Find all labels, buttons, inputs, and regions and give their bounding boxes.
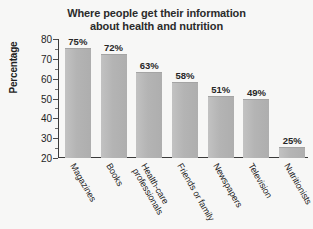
y-tick-label: 60 [41, 73, 52, 84]
plot-area: 20304050607080 75%Magazines72%Books63%He… [58, 39, 308, 158]
bar-value-label: 25% [283, 135, 302, 146]
y-tick-label: 30 [41, 133, 52, 144]
bar[interactable]: 49%Television [243, 99, 269, 158]
y-tick-label: 20 [41, 153, 52, 164]
y-tick-label: 50 [41, 93, 52, 104]
x-tick-label-line: Nutritionists [282, 162, 313, 206]
x-tick-label-line: Friends or family [175, 162, 216, 223]
y-tick-label: 70 [41, 53, 52, 64]
bar[interactable]: 75%Magazines [65, 48, 91, 158]
x-tick-label-line: Magazines [68, 162, 98, 204]
bar-value-label: 75% [68, 36, 87, 47]
x-tick-label: Nutritionists [282, 162, 313, 206]
bar[interactable]: 51%Newspapers [208, 96, 234, 158]
bar-chart: Where people get their information about… [0, 0, 313, 229]
chart-title-line-2: about health and nutrition [0, 20, 313, 33]
bar-value-label: 51% [211, 84, 230, 95]
x-tick-label-line: Books [103, 162, 123, 188]
bar[interactable]: 58%Friends or family [172, 82, 198, 158]
chart-title: Where people get their information about… [0, 7, 313, 32]
x-tick-label: Magazines [68, 162, 98, 204]
y-tick-major [53, 158, 58, 159]
x-tick-label: Books [103, 162, 123, 188]
x-tick-label: Newspapers [210, 162, 243, 209]
bar-value-label: 49% [247, 87, 266, 98]
bar-value-label: 72% [104, 42, 123, 53]
chart-title-line-1: Where people get their information [0, 7, 313, 20]
bar-value-label: 63% [140, 60, 159, 71]
bar[interactable]: 72%Books [101, 54, 127, 158]
bar[interactable]: 25%Nutritionists [279, 147, 305, 158]
bar[interactable]: 63%Health-careprofessionals [136, 72, 162, 158]
x-tick-label-line: Newspapers [210, 162, 243, 209]
y-tick-label: 40 [41, 113, 52, 124]
y-tick-label: 80 [41, 34, 52, 45]
x-tick-label: Television [246, 162, 273, 200]
x-tick-label: Friends or family [175, 162, 216, 223]
y-axis-label: Percentage [8, 28, 19, 108]
x-tick-label: Health-careprofessionals [131, 162, 173, 216]
bar-series: 75%Magazines72%Books63%Health-careprofes… [58, 39, 308, 158]
x-tick-label-line: Television [246, 162, 273, 200]
bar-value-label: 58% [175, 70, 194, 81]
